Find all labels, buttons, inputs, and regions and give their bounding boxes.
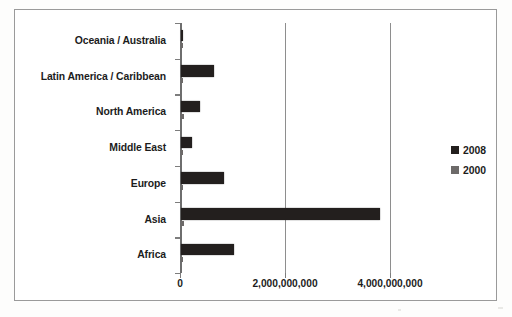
bar-2008-north-america[interactable] xyxy=(181,101,200,113)
bar-2008-europe[interactable] xyxy=(181,172,224,184)
y-axis-label-north-america: North America xyxy=(96,94,166,130)
bar-group-asia xyxy=(180,202,405,238)
x-axis-tick-label-4b: 4,000,000,000 xyxy=(357,278,422,289)
scan-speckle xyxy=(398,309,401,311)
y-axis-label-africa: Africa xyxy=(137,237,166,273)
y-axis-label-asia: Asia xyxy=(144,202,166,238)
scanned-page-background: Oceania / Australia Latin America / Cari… xyxy=(0,0,512,317)
bar-2000-north-america[interactable] xyxy=(181,114,184,119)
x-axis-tick-label-2b: 2,000,000,000 xyxy=(252,278,317,289)
legend-label-2008: 2008 xyxy=(463,145,486,156)
legend-item-2000[interactable]: 2000 xyxy=(451,160,511,180)
bar-2000-latin-america-caribbean[interactable] xyxy=(181,78,183,83)
legend-item-2008[interactable]: 2008 xyxy=(451,140,511,160)
legend-label-2000: 2000 xyxy=(463,165,486,176)
x-axis-tick-labels: 0 2,000,000,000 4,000,000,000 xyxy=(15,278,498,298)
bar-2000-oceania-australia[interactable] xyxy=(181,43,183,48)
bar-group-latin-america-caribbean xyxy=(180,59,405,95)
bar-2008-middle-east[interactable] xyxy=(181,137,192,149)
bar-2008-oceania-australia[interactable] xyxy=(181,30,183,42)
bar-2008-africa[interactable] xyxy=(181,244,234,256)
bar-group-middle-east xyxy=(180,130,405,166)
bar-2008-asia[interactable] xyxy=(181,208,380,220)
y-axis-label-middle-east: Middle East xyxy=(109,130,166,166)
scan-speckle xyxy=(498,307,503,309)
legend-swatch-2000-icon xyxy=(451,166,459,174)
bar-group-oceania-australia xyxy=(180,23,405,59)
bar-group-africa xyxy=(180,237,405,273)
chart-legend: 2008 2000 xyxy=(451,140,511,180)
bar-2000-europe[interactable] xyxy=(181,185,183,190)
bar-group-europe xyxy=(180,166,405,202)
x-axis-tick-label-0: 0 xyxy=(177,278,183,289)
plot-area xyxy=(180,23,405,273)
bar-2000-africa[interactable] xyxy=(181,257,183,262)
y-axis-label-oceania-australia: Oceania / Australia xyxy=(75,23,166,59)
bar-group-north-america xyxy=(180,94,405,130)
bar-2000-middle-east[interactable] xyxy=(181,150,183,155)
bar-2008-latin-america-caribbean[interactable] xyxy=(181,65,214,77)
legend-swatch-2008-icon xyxy=(451,146,459,154)
y-axis-label-europe: Europe xyxy=(131,166,166,202)
bar-2000-asia[interactable] xyxy=(181,221,184,226)
y-axis-label-latin-america-caribbean: Latin America / Caribbean xyxy=(41,59,166,95)
chart-frame: Oceania / Australia Latin America / Cari… xyxy=(14,9,497,301)
y-axis-category-labels: Oceania / Australia Latin America / Cari… xyxy=(15,23,173,273)
